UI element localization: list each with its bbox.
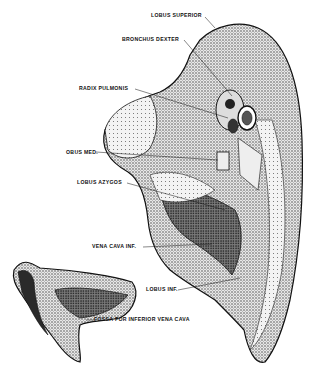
label-vena-cava-inf: VENA CAVA INF.: [92, 244, 136, 249]
label-lobus-azygos: LOBUS AZYGOS: [77, 180, 122, 185]
label-lobus-superior: LOBUS SUPERIOR: [151, 13, 202, 18]
label-radix-pulmonis: RADIX PULMONIS: [79, 86, 128, 91]
label-lobus-inf: LOBUS INF.: [146, 287, 178, 292]
azygos-lobe-piece: [13, 262, 135, 362]
label-obus-med: OBUS MED.: [66, 150, 98, 155]
label-bronchus-dexter: BRONCHUS DEXTER: [122, 37, 179, 42]
main-lung: [104, 24, 303, 362]
anatomical-illustration: LOBUS SUPERIOR BRONCHUS DEXTER RADIX PUL…: [0, 0, 310, 373]
label-fossa-inferior-vena-cava: FOSSA FOR INFERIOR VENA CAVA: [94, 317, 190, 322]
